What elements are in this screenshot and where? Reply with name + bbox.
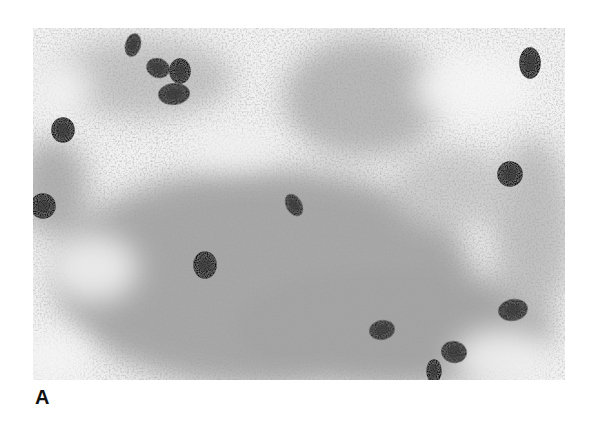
egg-interior	[199, 258, 211, 272]
micrograph-image	[33, 28, 565, 380]
egg-interior	[57, 123, 69, 136]
egg-interior	[36, 199, 49, 212]
egg-interior	[430, 365, 438, 377]
egg-interior	[503, 167, 516, 180]
micrograph-svg	[33, 28, 565, 380]
panel-label: A	[35, 386, 49, 409]
egg-interior	[175, 64, 186, 77]
egg-interior	[525, 55, 536, 72]
